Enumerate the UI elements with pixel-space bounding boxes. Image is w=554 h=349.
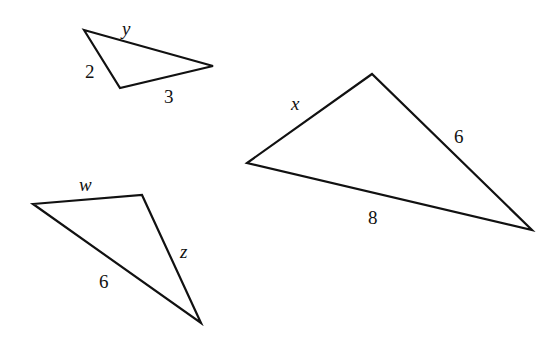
side-label-w: w (79, 174, 92, 195)
small-triangle: y 2 3 (84, 18, 213, 107)
triangles-svg: y 2 3 x 6 8 w z 6 (0, 0, 554, 349)
small-triangle-shape (84, 30, 213, 88)
side-label-z: z (179, 241, 188, 262)
side-label-3: 3 (164, 86, 174, 107)
side-label-6-large: 6 (454, 126, 464, 147)
side-label-8: 8 (368, 207, 378, 228)
side-label-y: y (120, 18, 131, 39)
bottom-left-triangle-shape (33, 195, 201, 323)
large-triangle-shape (247, 74, 532, 230)
diagram-canvas: y 2 3 x 6 8 w z 6 (0, 0, 554, 349)
large-triangle: x 6 8 (247, 74, 532, 230)
side-label-6-small: 6 (99, 271, 109, 292)
bottom-left-triangle: w z 6 (33, 174, 201, 323)
side-label-2: 2 (85, 61, 95, 82)
side-label-x: x (290, 93, 300, 114)
